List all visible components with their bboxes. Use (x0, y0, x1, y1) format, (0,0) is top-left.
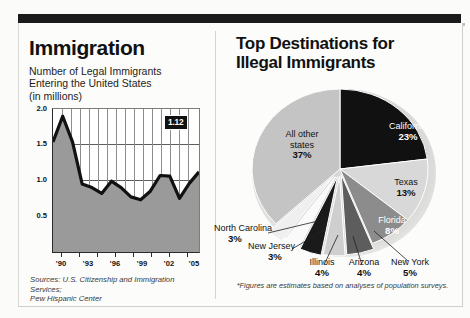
pie-label-florida: Florida 8% (362, 215, 422, 236)
page-title: Immigration (29, 36, 145, 60)
pie-label-new-york-pct: 5% (403, 267, 417, 278)
x-label-96: '96 (102, 259, 128, 268)
pie-label-all-other-states-name: All other states (285, 129, 318, 150)
data-callout-1-12: 1.12 (164, 115, 188, 130)
infographic-page: Immigration Number of Legal Immigrants E… (0, 0, 470, 318)
x-tick-92 (79, 252, 80, 257)
pie-label-arizona-pct: 4% (357, 267, 371, 278)
chart-subtitle: Number of Legal Immigrants Entering the … (29, 65, 161, 102)
area-series (53, 109, 199, 252)
x-tick-93 (97, 252, 98, 257)
y-tick-0-5: 0.5 (25, 211, 47, 220)
pie-label-california-pct: 23% (398, 131, 417, 142)
pie-label-arizona: Arizona 4% (340, 257, 388, 278)
pie-label-florida-name: Florida (378, 215, 406, 225)
pie-chart: All other states 37% California 23% Texa… (222, 73, 462, 268)
y-tick-1-0: 1.0 (25, 175, 47, 184)
pie-label-illinois: Illinois 4% (298, 257, 346, 278)
x-label-05: '05 (181, 259, 207, 268)
pie-label-california: California 23% (372, 121, 444, 142)
pie-footnote: *Figures are estimates based on analyses… (230, 281, 455, 290)
x-label-99: '99 (129, 259, 155, 268)
x-tick-95 (115, 252, 116, 257)
top-black-bar (18, 14, 461, 23)
x-tick-02 (187, 252, 188, 257)
immigration-line-chart-panel: Immigration Number of Legal Immigrants E… (19, 23, 215, 306)
pie-chart-title: Top Destinations for Illegal Immigrants (236, 34, 394, 72)
pie-label-texas: Texas 13% (374, 177, 438, 198)
panel-frame: Immigration Number of Legal Immigrants E… (18, 23, 463, 307)
pie-label-new-york-name: New York (391, 257, 429, 267)
x-label-02: '02 (156, 259, 182, 268)
pie-label-all-other-states-pct: 37% (292, 149, 311, 160)
x-tick-98 (151, 252, 152, 257)
pie-label-florida-pct: 8% (385, 225, 399, 236)
pie-label-north-carolina-name: North Carolina (214, 223, 272, 233)
y-tick-1-5: 1.5 (25, 139, 47, 148)
x-tick-99 (169, 252, 170, 257)
pie-label-new-york: New York 5% (382, 257, 438, 278)
pie-label-texas-pct: 13% (396, 187, 415, 198)
pie-label-all-other-states: All other states 37% (266, 129, 338, 161)
pie-chart-panel: Top Destinations for Illegal Immigrants (216, 23, 462, 306)
x-label-90: '90 (48, 259, 74, 268)
pie-label-new-jersey-name: New Jersey (248, 241, 295, 251)
pie-label-north-carolina-pct: 3% (228, 233, 242, 244)
pie-label-texas-name: Texas (394, 177, 418, 187)
source-note: Sources: U.S. Citizenship and Immigratio… (30, 275, 208, 304)
x-tick-96 (133, 252, 134, 257)
y-tick-2-0: 2.0 (25, 104, 47, 113)
x-tick-90 (61, 252, 62, 257)
pie-label-illinois-pct: 4% (315, 267, 329, 278)
pie-label-illinois-name: Illinois (309, 257, 334, 267)
pie-label-new-jersey-pct: 3% (268, 251, 282, 262)
pie-label-california-name: California (389, 121, 427, 131)
x-label-93: '93 (75, 259, 101, 268)
pie-label-arizona-name: Arizona (349, 257, 380, 267)
